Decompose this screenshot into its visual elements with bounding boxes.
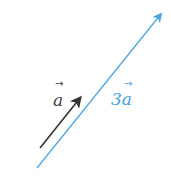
label-3a: 3a bbox=[111, 89, 132, 109]
vector-diagram: a → 3a → bbox=[0, 0, 171, 181]
vector-arrow-icon: → bbox=[55, 78, 63, 89]
vector-arrow-icon: → bbox=[124, 78, 132, 89]
diagram-svg: a → 3a → bbox=[0, 0, 171, 181]
label-a: a bbox=[53, 90, 63, 110]
